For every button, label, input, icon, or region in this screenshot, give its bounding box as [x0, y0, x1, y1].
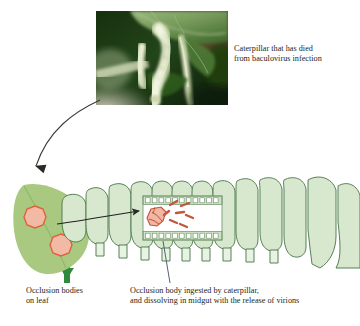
occlusion-bodies-on-leaf-caption: Occlusion bodies on leaf — [26, 286, 126, 307]
caterpillar-segment — [86, 188, 108, 245]
occlusion-body-upper — [24, 206, 46, 228]
caterpillar-head — [62, 194, 86, 242]
midgut-occlusion-body-caption: Occlusion body ingested by caterpillar, … — [130, 286, 358, 307]
arrow-photo-to-leaf — [36, 100, 100, 166]
midgut-epithelial-cells-bottom — [146, 233, 219, 238]
caterpillar-tail — [336, 184, 360, 268]
baculovirus-infection-figure: Caterpillar that has died from baculovir… — [0, 0, 360, 326]
caterpillar-segment — [260, 178, 282, 251]
caterpillar-segment — [284, 178, 306, 257]
midgut-detail-box — [143, 196, 222, 240]
caterpillar-segment — [236, 179, 258, 250]
midgut-epithelial-cells-top — [146, 198, 219, 203]
caterpillar-rear-segment — [308, 177, 336, 268]
photo-caption: Caterpillar that has died from baculovir… — [234, 44, 358, 65]
